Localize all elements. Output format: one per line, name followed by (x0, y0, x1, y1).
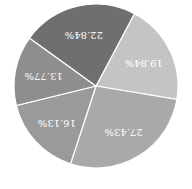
slice-label: 13.77% (25, 71, 63, 82)
slice-label: 19.84% (125, 58, 163, 69)
pie-slices (14, 4, 178, 168)
slice-label: 16.13% (38, 118, 76, 129)
slice-label: 22.84% (65, 30, 103, 41)
pie-chart: 19.84%27.43%16.13%13.77%22.84% (0, 0, 192, 189)
slice-label: 27.43% (105, 127, 143, 138)
